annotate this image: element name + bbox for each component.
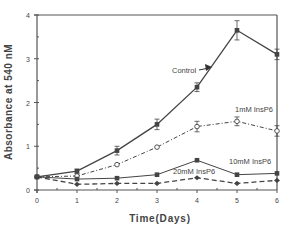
- annotation-1mm: 1mM InsP6: [235, 105, 273, 114]
- square-marker: [275, 52, 280, 57]
- x-axis-label: Time(Days): [129, 213, 191, 224]
- chart-svg: 012340123456 Absorbance at 540 nM Time(D…: [0, 0, 290, 233]
- circle-marker: [155, 145, 160, 150]
- series-line: [37, 30, 277, 177]
- circle-marker: [195, 124, 200, 129]
- square-marker: [115, 148, 120, 153]
- annotation-10mm: 10mM InsP6: [229, 157, 271, 166]
- square-marker: [235, 28, 240, 33]
- y-tick-label: 4: [26, 12, 30, 19]
- circle-marker: [275, 129, 280, 134]
- square-marker: [235, 172, 240, 177]
- square-marker: [75, 177, 80, 182]
- x-tick-label: 2: [115, 197, 119, 204]
- arrow-icon: [199, 64, 212, 71]
- x-tick-label: 4: [195, 197, 199, 204]
- annotation-20mm: 20mM InsP6: [173, 167, 215, 176]
- annotation-control: Control: [172, 66, 197, 75]
- square-marker: [195, 85, 200, 90]
- x-tick-label: 6: [275, 197, 279, 204]
- y-tick-label: 3: [26, 56, 30, 63]
- square-marker: [275, 171, 280, 176]
- diamond-marker: [234, 181, 240, 186]
- square-marker: [155, 172, 160, 177]
- x-tick-label: 3: [155, 197, 159, 204]
- series-control: [35, 21, 280, 179]
- x-tick-label: 0: [35, 197, 39, 204]
- y-tick-label: 1: [26, 143, 30, 150]
- y-axis-label: Absorbance at 540 nM: [3, 44, 14, 160]
- diamond-marker: [274, 178, 280, 183]
- square-marker: [75, 169, 80, 174]
- diamond-marker: [154, 181, 160, 186]
- diamond-marker: [114, 181, 120, 186]
- diamond-marker: [74, 182, 80, 187]
- square-marker: [155, 122, 160, 127]
- square-marker: [195, 158, 200, 163]
- square-marker: [115, 176, 120, 181]
- circle-marker: [115, 162, 120, 167]
- x-tick-label: 1: [75, 197, 79, 204]
- y-tick-label: 0: [26, 187, 30, 194]
- x-tick-label: 5: [235, 197, 239, 204]
- y-tick-label: 2: [26, 100, 30, 107]
- chart: 012340123456 Absorbance at 540 nM Time(D…: [0, 0, 290, 233]
- circle-marker: [235, 119, 240, 124]
